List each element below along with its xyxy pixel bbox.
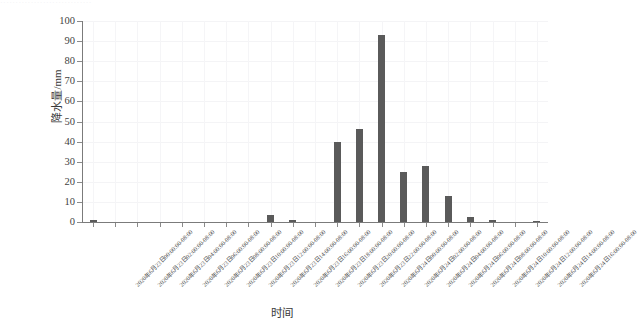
y-axis-tick-label: 30 (35, 157, 75, 167)
x-axis-tick (93, 223, 94, 227)
x-axis-tick (160, 223, 161, 227)
bar (533, 221, 540, 222)
x-axis-tick (537, 223, 538, 227)
y-axis-tick-label: 50 (35, 117, 75, 127)
y-axis-tick (77, 81, 82, 82)
gridline-vertical (315, 21, 316, 222)
y-axis-tick (77, 162, 82, 163)
bar (356, 129, 363, 222)
gridline-vertical (470, 21, 471, 222)
y-axis-tick (77, 202, 82, 203)
y-axis-tick (77, 41, 82, 42)
x-axis-tick (448, 223, 449, 227)
gridline-vertical (271, 21, 272, 222)
gridline-vertical (226, 21, 227, 222)
bar (289, 220, 296, 222)
x-axis-tick (226, 223, 227, 227)
y-axis-tick-label: 70 (35, 76, 75, 86)
x-axis-tick (293, 223, 294, 227)
bar (267, 215, 274, 222)
x-axis-tick (470, 223, 471, 227)
x-axis-tick (182, 223, 183, 227)
x-axis-tick (382, 223, 383, 227)
plot-area (82, 21, 548, 222)
gridline-vertical (160, 21, 161, 222)
gridline-vertical (182, 21, 183, 222)
bar (400, 172, 407, 222)
gridline-vertical (515, 21, 516, 222)
bar (489, 220, 496, 222)
y-axis-line (82, 21, 83, 223)
gridline-vertical (537, 21, 538, 222)
y-axis-tick-label: 100 (35, 16, 75, 26)
y-axis-tick (77, 21, 82, 22)
x-axis-tick (359, 223, 360, 227)
y-axis-tick-label: 10 (35, 197, 75, 207)
y-axis-tick-label: 20 (35, 177, 75, 187)
x-axis-tick (404, 223, 405, 227)
y-axis-tick-label: 40 (35, 137, 75, 147)
gridline-vertical (493, 21, 494, 222)
x-axis-tick (204, 223, 205, 227)
y-axis-tick-label: 0 (35, 217, 75, 227)
y-axis-tick (77, 222, 82, 223)
bar (467, 217, 474, 222)
gridline-vertical (204, 21, 205, 222)
x-axis-tick (137, 223, 138, 227)
gridline-vertical (115, 21, 116, 222)
x-axis-tick (426, 223, 427, 227)
gridline-vertical (448, 21, 449, 222)
x-axis-tick (248, 223, 249, 227)
y-axis-tick (77, 61, 82, 62)
y-axis-tick (77, 122, 82, 123)
gridline-vertical (137, 21, 138, 222)
gridline-vertical (93, 21, 94, 222)
y-axis-tick-label: 90 (35, 36, 75, 46)
bar (422, 166, 429, 222)
gridline-vertical (293, 21, 294, 222)
bar (445, 196, 452, 222)
bar (334, 142, 341, 222)
bar (378, 35, 385, 222)
gridline-vertical (248, 21, 249, 222)
bar (90, 220, 97, 222)
x-axis-title: 时间 (0, 304, 564, 320)
y-axis-tick (77, 142, 82, 143)
x-axis-tick (493, 223, 494, 227)
x-axis-tick (271, 223, 272, 227)
x-axis-tick (115, 223, 116, 227)
x-axis-tick (515, 223, 516, 227)
y-axis-tick (77, 101, 82, 102)
y-axis-tick (77, 182, 82, 183)
y-axis-tick-label: 80 (35, 56, 75, 66)
x-axis-tick (315, 223, 316, 227)
y-axis-tick-label: 60 (35, 96, 75, 106)
x-axis-tick (337, 223, 338, 227)
